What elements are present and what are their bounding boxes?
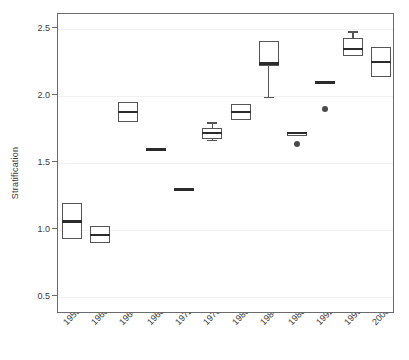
median-line [371, 61, 391, 63]
whisker-cap-upper [207, 122, 217, 123]
y-tick-label: 2.0 [16, 90, 50, 100]
whisker-cap-lower [264, 97, 274, 98]
outlier-point [294, 141, 300, 147]
y-tick-label: 0.5 [16, 291, 50, 301]
outlier-point [322, 106, 328, 112]
gridline [58, 96, 393, 97]
median-line [315, 81, 335, 84]
median-line [62, 220, 82, 222]
median-line [202, 132, 222, 134]
plot-area [57, 13, 394, 313]
whisker-cap-lower [207, 140, 217, 141]
median-line [146, 148, 166, 151]
gridline [58, 29, 393, 30]
y-tick-label: 1.5 [16, 157, 50, 167]
median-line [118, 111, 138, 113]
median-line [174, 188, 194, 191]
gridline [58, 163, 393, 164]
whisker-lower [268, 66, 269, 97]
y-tick-label: 2.5 [16, 23, 50, 33]
y-axis-title: Stratification [10, 113, 20, 233]
gridline [58, 297, 393, 298]
median-line [343, 48, 363, 50]
median-line [259, 62, 279, 64]
median-line [90, 234, 110, 236]
median-line [287, 132, 307, 134]
boxplot-figure: Stratification 0.51.01.52.02.5 195619601… [0, 0, 409, 360]
whisker-cap-upper [348, 31, 358, 32]
y-tick-label: 1.0 [16, 224, 50, 234]
median-line [231, 111, 251, 113]
